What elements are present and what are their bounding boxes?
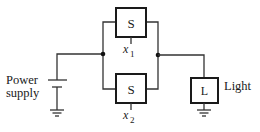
switch-var-top: x [122, 42, 129, 56]
switch-sub-bottom: 2 [130, 115, 135, 125]
ground-icon [50, 110, 64, 116]
left-rail [103, 22, 116, 89]
switch-symbol-bottom: S [127, 82, 134, 97]
switch-x2: S x 2 [116, 74, 146, 125]
switch-symbol-top: S [127, 16, 134, 31]
power-label-line1: Power [6, 73, 39, 87]
left-junction-dot [101, 52, 106, 57]
power-supply [48, 54, 103, 116]
switch-sub-top: 1 [130, 49, 135, 59]
switch-x1: S x 1 [116, 8, 146, 59]
light-label: Light [224, 79, 252, 93]
light: L [191, 78, 218, 116]
supply-wire-top [57, 54, 103, 80]
light-symbol: L [201, 84, 208, 98]
ground-icon [197, 110, 211, 116]
light-wire-top [158, 55, 204, 78]
switch-var-bottom: x [122, 108, 129, 122]
power-label-line2: supply [6, 86, 40, 100]
circuit-diagram: Power supply S x 1 S x 2 L Light [0, 0, 260, 132]
